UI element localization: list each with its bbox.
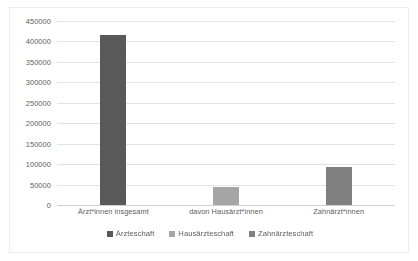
bar-group [57,21,170,205]
legend-item-3[interactable]: Zahnärzteschaft [249,229,313,238]
x-axis-tick-label: davon Hausärzt*innen [189,207,263,216]
x-axis-tick-label: Zahnärzt*innen [313,207,364,216]
x-axis-tick-label: Ärzt*innen insgesamt [78,207,149,216]
legend-item-1[interactable]: Ärzteschaft [107,229,155,238]
bar-1[interactable] [100,35,126,205]
legend-swatch-icon [169,231,175,237]
legend-item-label: Hausärzteschaft [178,229,234,238]
y-axis: 4500004000003500003000002500002000001500… [10,21,55,205]
y-axis-tick-label: 0 [47,201,51,210]
y-axis-tick-label: 250000 [26,98,51,107]
bar-group [170,21,283,205]
y-axis-tick-label: 400000 [26,37,51,46]
y-axis-tick-label: 200000 [26,119,51,128]
y-axis-tick-label: 150000 [26,139,51,148]
y-axis-tick-label: 100000 [26,160,51,169]
axis-line-zero [57,205,395,206]
legend-swatch-icon [249,231,255,237]
bar-3[interactable] [326,167,352,205]
chart-container: 4500004000003500003000002500002000001500… [9,7,409,253]
y-axis-tick-label: 350000 [26,57,51,66]
x-axis: Ärzt*innen insgesamtdavon Hausärzt*innen… [57,207,395,221]
plot-area [57,21,395,205]
y-axis-tick-label: 300000 [26,78,51,87]
bar-group [282,21,395,205]
legend-swatch-icon [107,231,113,237]
bar-2[interactable] [213,187,239,205]
legend-item-label: Ärzteschaft [116,229,155,238]
chart-legend: ÄrzteschaftHausärzteschaftZahnärzteschaf… [10,229,410,238]
legend-item-2[interactable]: Hausärzteschaft [169,229,234,238]
y-axis-tick-label: 50000 [30,180,51,189]
legend-item-label: Zahnärzteschaft [258,229,313,238]
y-axis-tick-label: 450000 [26,17,51,26]
